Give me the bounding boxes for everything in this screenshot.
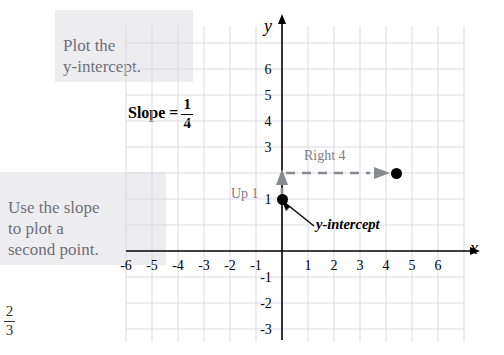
figure-canvas: Plot the y-intercept. Slope = 1 4 Use th… bbox=[0, 0, 504, 355]
x-tick--5: -5 bbox=[142, 258, 162, 274]
label-y-intercept: y-intercept bbox=[316, 216, 380, 233]
x-tick-3: 3 bbox=[352, 258, 368, 274]
y-tick-4: 4 bbox=[260, 114, 276, 130]
right-4-arrowhead bbox=[374, 167, 390, 179]
stray-fraction-denominator: 3 bbox=[6, 323, 14, 339]
y-tick--2: -2 bbox=[256, 296, 276, 312]
y-tick-3: 3 bbox=[260, 140, 276, 156]
x-tick--6: -6 bbox=[116, 258, 136, 274]
grid-lines bbox=[126, 26, 464, 342]
x-tick-6: 6 bbox=[430, 258, 446, 274]
point-second bbox=[391, 168, 402, 179]
coordinate-graph: y x -6 -5 -4 -3 -2 -1 1 2 3 4 5 6 6 5 4 … bbox=[118, 8, 490, 348]
graph-svg bbox=[118, 8, 490, 348]
y-axis-label: y bbox=[264, 16, 272, 37]
x-tick-2: 2 bbox=[326, 258, 342, 274]
x-tick-4: 4 bbox=[378, 258, 394, 274]
y-axis-arrowhead bbox=[278, 14, 286, 24]
up-1-arrowhead bbox=[276, 169, 288, 185]
stray-fraction-numerator: 2 bbox=[6, 304, 14, 320]
x-tick--3: -3 bbox=[194, 258, 214, 274]
x-tick--2: -2 bbox=[220, 258, 240, 274]
stray-fraction: 2 3 bbox=[4, 304, 15, 339]
label-right-4: Right 4 bbox=[304, 148, 346, 164]
x-tick--4: -4 bbox=[168, 258, 188, 274]
y-tick-1: 1 bbox=[260, 192, 276, 208]
x-tick-5: 5 bbox=[404, 258, 420, 274]
note-use-slope-text: Use the slope to plot a second point. bbox=[8, 198, 100, 259]
y-tick--3: -3 bbox=[256, 322, 276, 338]
x-axis-label: x bbox=[470, 238, 478, 259]
x-tick-1: 1 bbox=[300, 258, 316, 274]
label-up-1: Up 1 bbox=[231, 186, 259, 202]
point-y-intercept bbox=[277, 194, 288, 205]
y-tick-5: 5 bbox=[260, 88, 276, 104]
y-tick--1: -1 bbox=[256, 270, 276, 286]
y-tick-6: 6 bbox=[260, 62, 276, 78]
